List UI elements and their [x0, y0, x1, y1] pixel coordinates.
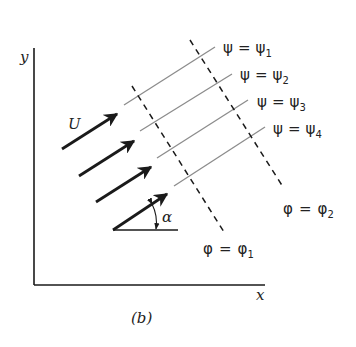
streamline-labels: ψ=ψ1 ψ=ψ2 ψ=ψ3 ψ=ψ4 — [223, 39, 322, 140]
potential-label-2: φ=φ2 — [283, 200, 334, 220]
angle-label: α — [162, 208, 172, 226]
arrow-icon — [113, 194, 167, 230]
streamline-label-1: ψ=ψ1 — [223, 39, 272, 59]
x-axis-label: x — [256, 286, 265, 304]
streamline-label-2: ψ=ψ2 — [240, 66, 289, 86]
streamline-label-4: ψ=ψ4 — [273, 120, 322, 140]
potential-label-1: φ=φ1 — [203, 240, 254, 260]
uniform-flow-diagram: y x U α ψ=ψ1 ψ=ψ2 ψ=ψ3 ψ=ψ4 φ=φ1 φ=φ2 (b… — [0, 0, 356, 347]
arrow-icon — [79, 141, 134, 176]
potential-line-2 — [190, 40, 283, 187]
velocity-label: U — [68, 115, 82, 133]
streamline-2 — [140, 74, 232, 131]
figure-caption: (b) — [131, 309, 152, 327]
arrow-icon — [96, 167, 151, 202]
y-axis-label: y — [19, 48, 29, 66]
angle-arc — [152, 204, 157, 229]
streamline-label-3: ψ=ψ3 — [257, 93, 306, 113]
